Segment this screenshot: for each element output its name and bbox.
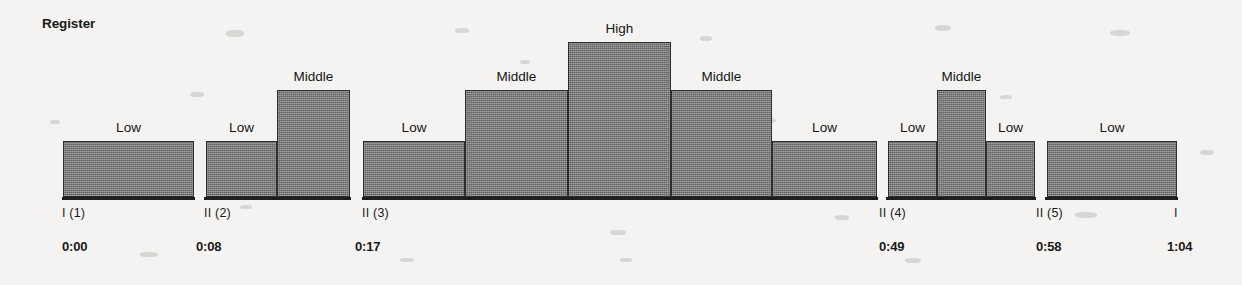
segment-marker-label: II (5) bbox=[1036, 206, 1063, 220]
time-axis-label: 0:49 bbox=[879, 239, 904, 254]
paper-speck bbox=[700, 36, 712, 41]
paper-speck bbox=[905, 258, 921, 263]
register-bar bbox=[568, 42, 671, 197]
paper-speck bbox=[140, 252, 158, 257]
bar-level-label: Middle bbox=[942, 69, 982, 84]
register-bar bbox=[937, 90, 986, 197]
bar-level-label: Low bbox=[1100, 120, 1125, 135]
paper-speck bbox=[1110, 30, 1130, 36]
segment-marker-label: II (4) bbox=[879, 206, 906, 220]
paper-speck bbox=[1200, 150, 1214, 155]
paper-speck bbox=[620, 258, 632, 262]
paper-speck bbox=[226, 30, 244, 37]
segment-marker-label: I (1) bbox=[62, 206, 85, 220]
paper-speck bbox=[835, 215, 849, 220]
paper-speck bbox=[935, 25, 951, 31]
plot-area: LowLowMiddleLowMiddleHighMiddleLowLowMid… bbox=[0, 0, 1242, 285]
time-axis-label: 0:58 bbox=[1036, 239, 1061, 254]
paper-speck bbox=[190, 92, 204, 97]
segment-marker-label: II (3) bbox=[362, 206, 389, 220]
paper-speck bbox=[50, 120, 60, 124]
paper-speck bbox=[610, 230, 626, 235]
register-bar bbox=[888, 141, 937, 197]
register-bar bbox=[986, 141, 1035, 197]
register-bar bbox=[277, 90, 350, 197]
paper-speck bbox=[455, 28, 469, 33]
bar-level-label: Low bbox=[812, 120, 837, 135]
paper-speck bbox=[240, 205, 252, 209]
bar-level-label: Middle bbox=[702, 69, 742, 84]
register-bar bbox=[671, 90, 772, 197]
time-axis-label: 1:04 bbox=[1167, 239, 1192, 254]
time-axis-label: 0:08 bbox=[196, 239, 221, 254]
bar-level-label: Low bbox=[998, 120, 1023, 135]
bar-level-label: Low bbox=[900, 120, 925, 135]
bar-level-label: Low bbox=[402, 120, 427, 135]
baseline-rule bbox=[62, 197, 195, 200]
paper-speck bbox=[1000, 95, 1012, 99]
register-bar bbox=[363, 141, 465, 197]
register-chart: Register LowLowMiddleLowMiddleHighMiddle… bbox=[0, 0, 1242, 285]
time-axis-label: 0:17 bbox=[355, 239, 380, 254]
bar-level-label: Middle bbox=[294, 69, 334, 84]
baseline-rule bbox=[886, 197, 1036, 200]
register-bar bbox=[465, 90, 568, 197]
baseline-rule bbox=[1045, 197, 1178, 200]
paper-speck bbox=[400, 258, 414, 262]
bar-level-label: Middle bbox=[497, 69, 537, 84]
paper-speck bbox=[1075, 212, 1097, 218]
paper-speck bbox=[520, 60, 530, 64]
bar-level-label: High bbox=[606, 21, 634, 36]
baseline-rule bbox=[204, 197, 351, 200]
bar-level-label: Low bbox=[229, 120, 254, 135]
segment-marker-label: II (2) bbox=[204, 206, 231, 220]
register-bar bbox=[63, 141, 194, 197]
bar-level-label: Low bbox=[116, 120, 141, 135]
register-bar bbox=[1047, 141, 1177, 197]
register-bar bbox=[772, 141, 877, 197]
time-axis-label: 0:00 bbox=[62, 239, 87, 254]
register-bar bbox=[206, 141, 277, 197]
baseline-rule bbox=[362, 197, 878, 200]
segment-marker-label: I bbox=[1174, 206, 1178, 220]
